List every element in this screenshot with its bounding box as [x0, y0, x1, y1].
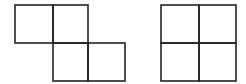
- diagram-canvas: [0, 0, 246, 84]
- grid-cell: [15, 5, 53, 43]
- s-tetromino-shape: [15, 5, 125, 81]
- grid-cell: [199, 5, 236, 43]
- grid-cell: [199, 43, 236, 81]
- grid-cell: [161, 43, 199, 81]
- grid-cell: [53, 43, 88, 81]
- square-2x2-shape: [161, 5, 236, 81]
- grid-cell: [53, 5, 88, 43]
- grid-cell: [161, 5, 199, 43]
- grid-cell: [88, 43, 125, 81]
